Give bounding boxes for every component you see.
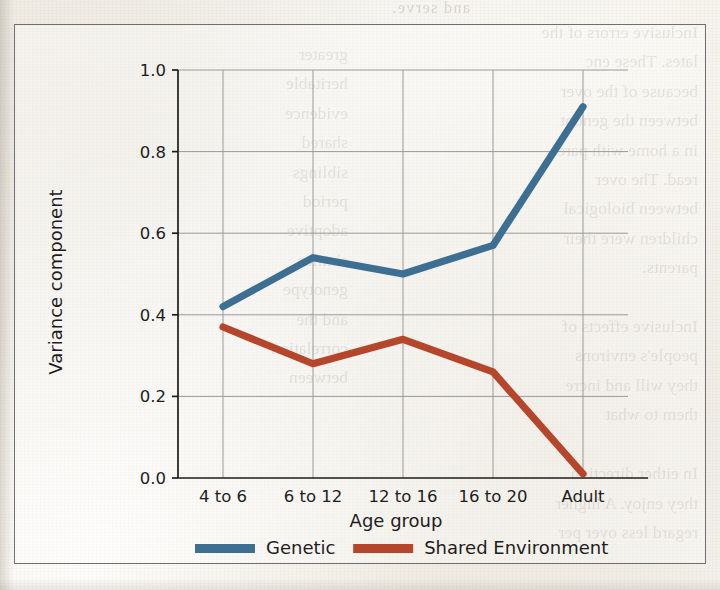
x-axis-title: Age group	[350, 510, 443, 531]
x-tick-label: Adult	[562, 487, 606, 506]
y-tick-label: 1.0	[140, 61, 166, 80]
x-tick-label: 6 to 12	[284, 487, 343, 506]
y-tick-label: 0.4	[140, 306, 166, 325]
y-tick-label: 0.2	[140, 387, 166, 406]
x-tick-label: 4 to 6	[199, 487, 247, 506]
y-tick-label: 0.6	[140, 224, 166, 243]
y-tick-label: 0.8	[140, 143, 166, 162]
legend-swatch	[195, 544, 255, 553]
legend-swatch	[353, 544, 413, 553]
x-tick-label: 12 to 16	[368, 487, 437, 506]
y-axis-tick-labels: 0.00.20.40.60.81.0	[140, 61, 178, 488]
x-axis-tick-labels: 4 to 66 to 1212 to 1616 to 20Adult	[199, 487, 605, 506]
scanned-book-page: and serve. Inclusive errors of the lates…	[0, 0, 720, 590]
x-tick-label: 16 to 20	[458, 487, 527, 506]
legend-label: Genetic	[266, 537, 335, 558]
line-chart: 0.00.20.40.60.81.0 4 to 66 to 1212 to 16…	[0, 0, 720, 590]
y-tick-label: 0.0	[140, 469, 166, 488]
legend: GeneticShared Environment	[195, 537, 608, 558]
chart-svg: 0.00.20.40.60.81.0 4 to 66 to 1212 to 16…	[0, 0, 720, 590]
y-axis-title: Variance component	[45, 189, 66, 374]
legend-label: Shared Environment	[424, 537, 608, 558]
